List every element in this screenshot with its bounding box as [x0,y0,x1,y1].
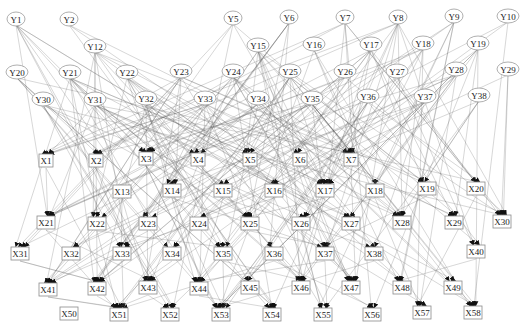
y-node-y30: Y30 [32,92,54,106]
x-node-x28: X28 [393,216,411,229]
x-node-x37: X37 [316,247,334,260]
x-node-x43: X43 [139,281,157,294]
y-node-label: Y37 [417,92,433,102]
x-node-label: X28 [394,218,410,228]
x-node-label: X23 [140,219,156,229]
y-node-y35: Y35 [301,91,323,105]
y-node-label: Y9 [449,12,460,22]
x-node-x49: X49 [444,281,462,294]
edge-arrow [351,295,372,308]
x-node-x26: X26 [292,217,310,230]
x-node-label: X21 [38,218,54,228]
x-node-x22: X22 [88,217,106,230]
x-node-label: X45 [242,283,258,293]
x-node-label: X30 [494,217,510,227]
x-node-x19: X19 [418,182,436,195]
x-node-label: X54 [264,310,280,320]
edge-arrow [329,102,368,184]
y-node-label: Y15 [250,41,266,51]
edge-arrow [329,75,456,184]
y-node-y10: Y10 [497,9,519,23]
x-node-label: X31 [12,249,28,259]
y-node-y19: Y19 [467,36,489,50]
edge-arrow [398,259,476,281]
y-node-y22: Y22 [116,65,138,79]
x-node-x15: X15 [214,184,232,197]
x-node-x21: X21 [37,216,55,229]
network-canvas: Y1Y2Y5Y6Y7Y8Y9Y10Y12Y15Y16Y17Y18Y19Y20Y2… [0,0,525,334]
edge-arrow [121,199,122,247]
x-node-x58: X58 [464,306,482,319]
x-node-label: X16 [266,186,282,196]
y-node-label: Y12 [87,42,103,52]
x-node-label: X35 [215,249,231,259]
x-node-x18: X18 [366,184,384,197]
y-node-y24: Y24 [222,64,244,78]
x-node-label: X22 [89,219,105,229]
y-node-label: Y26 [337,67,353,77]
edge-arrow [219,49,478,308]
x-node-x30: X30 [493,215,511,228]
y-node-label: Y28 [448,65,464,75]
edge-arrow [425,101,479,182]
y-node-label: Y30 [35,95,51,105]
x-node-label: X56 [364,310,380,320]
x-node-label: X17 [317,186,333,196]
y-node-label: Y18 [415,39,431,49]
y-node-label: Y2 [64,15,75,25]
x-node-label: X51 [111,310,127,320]
y-node-label: Y27 [389,67,405,77]
x-node-label: X3 [141,154,152,164]
x-node-x29: X29 [445,216,463,229]
y-node-label: Y29 [500,65,516,75]
y-node-y20: Y20 [6,65,28,79]
y-node-label: Y23 [173,67,189,77]
y-node-y23: Y23 [170,64,192,78]
y-node-label: Y31 [87,95,103,105]
x-node-label: X4 [193,155,204,165]
y-node-y33: Y33 [194,91,216,105]
x-node-label: X26 [293,219,309,229]
y-node-y21: Y21 [59,65,81,79]
edge-arrow [476,49,478,306]
x-node-x14: X14 [163,184,181,197]
y-node-y36: Y36 [357,89,379,103]
x-node-label: X43 [140,283,156,293]
x-node-x40: X40 [467,245,485,258]
y-node-label: Y25 [282,67,298,77]
x-node-label: X2 [91,156,102,166]
y-node-label: Y16 [306,40,322,50]
x-node-label: X36 [266,249,282,259]
y-node-y34: Y34 [247,91,269,105]
x-node-x45: X45 [241,281,259,294]
x-node-x35: X35 [214,247,232,260]
x-node-x16: X16 [265,184,283,197]
y-node-y27: Y27 [386,64,408,78]
x-node-label: X15 [215,186,231,196]
x-node-label: X25 [242,219,258,229]
edge-arrow [199,296,272,308]
x-node-x38: X38 [365,247,383,260]
x-node-label: X18 [367,186,383,196]
network-diagram: Y1Y2Y5Y6Y7Y8Y9Y10Y12Y15Y16Y17Y18Y19Y20Y2… [0,0,525,334]
y-node-label: Y1 [11,15,22,25]
y-node-label: Y10 [500,12,516,22]
x-node-label: X53 [213,310,229,320]
x-node-x47: X47 [342,281,360,294]
x-node-label: X46 [293,283,309,293]
y-node-y16: Y16 [303,37,325,51]
x-node-label: X42 [89,284,105,294]
y-node-y32: Y32 [135,91,157,105]
x-node-x44: X44 [190,282,208,295]
edge-arrow [398,23,507,215]
x-node-label: X49 [445,283,461,293]
x-node-label: X40 [468,247,484,257]
y-node-label: Y38 [471,91,487,101]
y-node-label: Y17 [363,40,379,50]
x-node-x42: X42 [88,282,106,295]
y-node-label: Y8 [393,13,404,23]
x-node-x46: X46 [292,281,310,294]
y-node-y18: Y18 [412,36,434,50]
edge-arrow [97,231,117,308]
x-node-x20: X20 [467,182,485,195]
